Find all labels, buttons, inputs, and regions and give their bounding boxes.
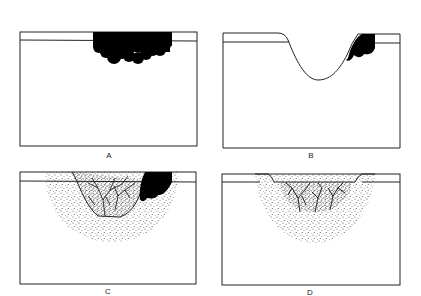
panel-d: D [222,174,400,296]
panel-a-label: A [106,151,112,160]
panel-a: A [20,32,197,160]
figure-diagram: A B C [0,0,421,296]
panel-d-label: D [307,288,313,296]
panel-c: C [20,172,196,296]
panel-a-dark-mass [93,32,172,64]
panel-b-label: B [308,151,313,160]
panel-b: B [223,33,400,160]
panel-c-label: C [105,287,111,296]
